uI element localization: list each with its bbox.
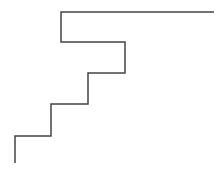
staircase-line xyxy=(15,12,214,163)
staircase-diagram xyxy=(0,0,220,169)
diagram-canvas xyxy=(0,0,220,169)
